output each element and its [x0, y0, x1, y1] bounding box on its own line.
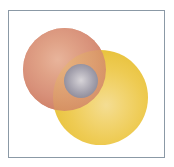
gray-sphere [64, 64, 98, 98]
figure-canvas [0, 0, 174, 167]
sphere-stage [9, 11, 164, 157]
